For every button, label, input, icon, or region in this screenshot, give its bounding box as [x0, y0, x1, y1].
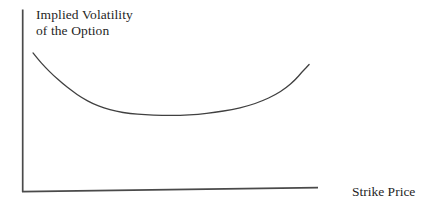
y-axis-label-line2: of the Option: [36, 23, 133, 39]
x-axis-label: Strike Price: [352, 184, 415, 199]
y-axis-label-line1: Implied Volatility: [36, 7, 133, 23]
volatility-smile-curve: [33, 53, 309, 116]
y-axis-label: Implied Volatility of the Option: [36, 7, 133, 39]
volatility-smile-figure: Implied Volatility of the Option Strike …: [0, 0, 437, 210]
x-axis-line: [22, 188, 318, 192]
